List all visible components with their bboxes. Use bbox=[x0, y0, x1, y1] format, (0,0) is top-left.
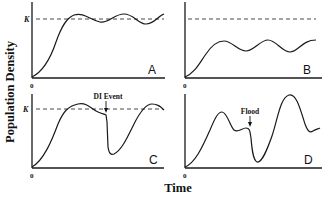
curve-c bbox=[32, 104, 164, 167]
origin-label: 0 bbox=[30, 82, 34, 90]
panel-label-d: D bbox=[304, 153, 313, 167]
panel-label-a: A bbox=[148, 63, 156, 77]
x-axis-label: Time bbox=[164, 181, 192, 195]
curve-a bbox=[32, 14, 164, 77]
curve-d bbox=[185, 95, 320, 167]
origin-label: 0 bbox=[30, 172, 34, 180]
k-label: K bbox=[22, 105, 29, 114]
panel-label-c: C bbox=[149, 153, 158, 167]
arrow-icon bbox=[104, 101, 108, 113]
k-label: K bbox=[23, 15, 30, 24]
panel-label-b: B bbox=[303, 63, 311, 77]
y-axis-label: Population Density bbox=[3, 40, 17, 143]
panel-b: 0 B bbox=[183, 2, 322, 90]
origin-label: 0 bbox=[183, 82, 187, 90]
figure-canvas: Population Density Time K 0 A 0 B K 0 DI… bbox=[0, 0, 329, 201]
panel-d: 0 Flood D bbox=[183, 94, 322, 180]
panel-a: K 0 A bbox=[23, 2, 165, 90]
origin-label: 0 bbox=[183, 172, 187, 180]
arrow-icon bbox=[248, 116, 252, 127]
panel-c: K 0 DI Event C bbox=[22, 92, 164, 180]
annotation-flood: Flood bbox=[241, 107, 260, 116]
curve-b bbox=[185, 40, 316, 77]
annotation-di-event: DI Event bbox=[94, 92, 123, 101]
